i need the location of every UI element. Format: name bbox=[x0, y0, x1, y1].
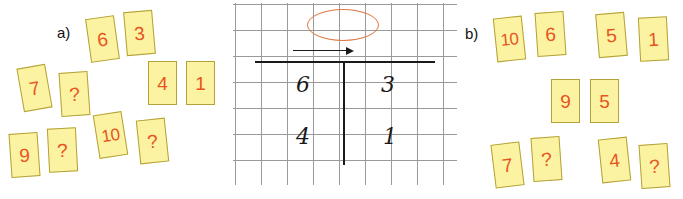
card-value-label: 4 bbox=[608, 150, 621, 170]
card-value-label: 10 bbox=[500, 30, 520, 49]
arrow-line bbox=[293, 50, 348, 51]
card-value-label: 10 bbox=[100, 125, 120, 145]
number-card[interactable]: 9 bbox=[551, 79, 580, 123]
panel-b-label: b) bbox=[465, 25, 478, 42]
grid-handwritten-digit: 6 bbox=[296, 74, 310, 96]
card-value-label: 1 bbox=[195, 74, 206, 93]
t-shape-vertical-stem bbox=[343, 61, 345, 165]
card-value-label: 1 bbox=[648, 29, 660, 49]
card-value-label: 6 bbox=[545, 24, 557, 44]
number-card[interactable]: 6 bbox=[85, 15, 120, 63]
number-card[interactable]: 9 bbox=[9, 132, 41, 178]
card-value-label: 3 bbox=[133, 23, 145, 43]
number-card[interactable]: ? bbox=[531, 136, 563, 182]
card-value-label: 4 bbox=[157, 74, 168, 93]
arrow-head-icon bbox=[346, 47, 354, 55]
number-card[interactable]: 10 bbox=[93, 111, 129, 159]
grid-handwritten-digit: 3 bbox=[381, 74, 395, 96]
card-value-label: 7 bbox=[28, 78, 42, 99]
number-card[interactable]: ? bbox=[136, 118, 169, 165]
number-card[interactable]: ? bbox=[59, 71, 91, 117]
number-card[interactable]: 7 bbox=[16, 64, 52, 112]
number-card[interactable]: 1 bbox=[186, 61, 215, 105]
grid-panel: 6341 bbox=[233, 3, 457, 185]
number-card[interactable]: 3 bbox=[123, 10, 156, 56]
card-value-label: ? bbox=[69, 84, 81, 104]
figure-root: a) 637?4110?9? 6341 b) 10651957?4? bbox=[0, 0, 683, 199]
card-value-label: ? bbox=[146, 131, 159, 151]
number-card[interactable]: ? bbox=[47, 127, 78, 172]
number-card[interactable]: ? bbox=[639, 143, 671, 189]
number-card[interactable]: 5 bbox=[590, 79, 619, 123]
card-value-label: ? bbox=[541, 149, 553, 169]
panel-a-label: a) bbox=[57, 24, 70, 41]
card-value-label: 7 bbox=[501, 155, 514, 175]
card-value-label: 5 bbox=[599, 92, 610, 111]
ellipse-shape bbox=[307, 9, 379, 41]
t-shape-horizontal-bar bbox=[255, 61, 435, 63]
number-card[interactable]: 10 bbox=[493, 16, 526, 63]
grid-handwritten-digit: 4 bbox=[296, 126, 310, 148]
number-card[interactable]: 1 bbox=[638, 16, 669, 61]
card-value-label: 9 bbox=[19, 145, 31, 165]
number-card[interactable]: 7 bbox=[490, 141, 524, 188]
number-card[interactable]: 4 bbox=[148, 61, 177, 105]
number-card[interactable]: 5 bbox=[595, 12, 628, 58]
card-value-label: 5 bbox=[605, 25, 617, 45]
number-card[interactable]: 4 bbox=[598, 137, 631, 184]
number-card[interactable]: 6 bbox=[535, 11, 567, 57]
grid-handwritten-digit: 1 bbox=[383, 126, 397, 148]
card-value-label: 6 bbox=[96, 29, 109, 49]
card-value-label: ? bbox=[649, 156, 661, 176]
card-value-label: 9 bbox=[560, 92, 571, 111]
card-value-label: ? bbox=[57, 140, 69, 160]
